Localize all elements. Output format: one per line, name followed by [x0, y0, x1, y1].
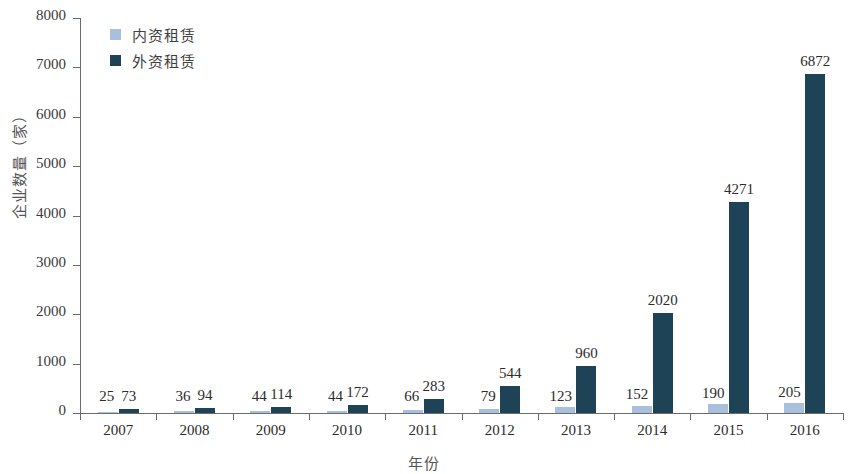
- bar-group: [784, 18, 825, 413]
- y-axis-tick-label: 4000: [36, 205, 66, 222]
- x-axis-tick-mark: [385, 413, 386, 420]
- data-label-foreign-leasing: 960: [554, 345, 618, 362]
- x-axis-tick-mark: [233, 413, 234, 420]
- legend-label: 内资租赁: [132, 24, 196, 45]
- data-label-foreign-leasing: 4271: [707, 181, 771, 198]
- y-axis-tick-mark: [73, 18, 80, 19]
- bar-group: [632, 18, 673, 413]
- x-axis-category-label: 2011: [385, 422, 461, 439]
- legend-swatch-icon: [110, 29, 121, 40]
- y-axis-tick: 3000: [4, 265, 80, 266]
- y-axis-tick: 6000: [4, 117, 80, 118]
- bar-foreign-leasing: [271, 407, 291, 413]
- x-axis-tick-mark: [614, 413, 615, 420]
- bar-foreign-leasing: [729, 202, 749, 413]
- x-axis-category-label: 2009: [233, 422, 309, 439]
- y-axis-tick-label: 5000: [36, 155, 66, 172]
- x-axis-category-label: 2013: [538, 422, 614, 439]
- bar-domestic-leasing: [632, 406, 652, 414]
- x-axis-tick-mark: [690, 413, 691, 420]
- y-axis-line: [80, 18, 81, 413]
- y-axis-tick: 0: [4, 413, 80, 414]
- y-axis-tick-label: 6000: [36, 106, 66, 123]
- bar-group: [403, 18, 444, 413]
- bar-group: [98, 18, 139, 413]
- data-label-domestic-leasing: 152: [592, 386, 648, 403]
- bar-foreign-leasing: [119, 409, 139, 413]
- x-axis-tick-mark: [80, 413, 81, 420]
- y-axis-tick-mark: [73, 364, 80, 365]
- x-axis-category-label: 2015: [690, 422, 766, 439]
- x-axis-category-label: 2008: [156, 422, 232, 439]
- bar-group: [250, 18, 291, 413]
- data-label-foreign-leasing: 2020: [631, 292, 695, 309]
- y-axis-tick: 2000: [4, 314, 80, 315]
- x-axis-title: 年份: [0, 452, 848, 473]
- y-axis-tick: 5000: [4, 166, 80, 167]
- y-axis-tick-label: 8000: [36, 7, 66, 24]
- bar-group: [327, 18, 368, 413]
- legend-label: 外资租赁: [132, 50, 196, 71]
- x-axis-tick-mark: [462, 413, 463, 420]
- y-axis-tick-label: 1000: [36, 353, 66, 370]
- y-axis-tick-mark: [73, 413, 80, 414]
- data-label-foreign-leasing: 544: [478, 365, 542, 382]
- x-axis-category-label: 2016: [767, 422, 843, 439]
- legend-item: 内资租赁: [110, 21, 196, 47]
- bar-foreign-leasing: [348, 405, 368, 413]
- bar-domestic-leasing: [555, 407, 575, 413]
- y-axis-tick-label: 7000: [36, 56, 66, 73]
- y-axis-tick-label: 3000: [36, 254, 66, 271]
- bar-group: [708, 18, 749, 413]
- y-axis-tick: 4000: [4, 216, 80, 217]
- data-label-foreign-leasing: 6872: [783, 53, 847, 70]
- x-axis-tick-mark: [156, 413, 157, 420]
- x-axis-tick-mark: [767, 413, 768, 420]
- bar-foreign-leasing: [195, 408, 215, 413]
- bar-domestic-leasing: [784, 403, 804, 413]
- bar-group: [174, 18, 215, 413]
- y-axis-tick-mark: [73, 117, 80, 118]
- bar-domestic-leasing: [403, 410, 423, 413]
- y-axis-tick-mark: [73, 216, 80, 217]
- bar-group: [479, 18, 520, 413]
- y-axis-title: 企业数量（家）: [8, 83, 29, 243]
- x-axis-category-label: 2012: [462, 422, 538, 439]
- y-axis-tick-mark: [73, 265, 80, 266]
- y-axis-tick: 7000: [4, 67, 80, 68]
- bar-domestic-leasing: [327, 411, 347, 413]
- data-label-domestic-leasing: 79: [440, 388, 496, 405]
- y-axis-tick-mark: [73, 67, 80, 68]
- data-label-domestic-leasing: 205: [745, 384, 801, 401]
- bar-domestic-leasing: [479, 409, 499, 413]
- x-axis-tick-mark: [309, 413, 310, 420]
- x-axis-category-label: 2010: [309, 422, 385, 439]
- bar-domestic-leasing: [98, 412, 118, 413]
- plot-area: 010002000300040005000600070008000 257336…: [80, 18, 843, 413]
- y-axis-tick: 8000: [4, 18, 80, 19]
- bar-domestic-leasing: [174, 411, 194, 413]
- y-axis-tick-mark: [73, 314, 80, 315]
- bar-domestic-leasing: [250, 411, 270, 413]
- data-label-domestic-leasing: 190: [669, 385, 725, 402]
- x-axis-category-label: 2007: [80, 422, 156, 439]
- bar-domestic-leasing: [708, 404, 728, 413]
- y-axis-tick-label: 2000: [36, 303, 66, 320]
- x-axis-tick-mark: [538, 413, 539, 420]
- chart-figure: 企业数量（家） 年份 01000200030004000500060007000…: [0, 0, 848, 474]
- data-label-domestic-leasing: 123: [516, 388, 572, 405]
- bar-foreign-leasing: [805, 74, 825, 413]
- legend-item: 外资租赁: [110, 47, 196, 73]
- x-axis-category-label: 2014: [614, 422, 690, 439]
- y-axis-tick: 1000: [4, 364, 80, 365]
- legend-swatch-icon: [110, 55, 121, 66]
- x-axis-tick-mark: [843, 413, 844, 420]
- y-axis-tick-mark: [73, 166, 80, 167]
- chart-legend: 内资租赁外资租赁: [110, 21, 196, 73]
